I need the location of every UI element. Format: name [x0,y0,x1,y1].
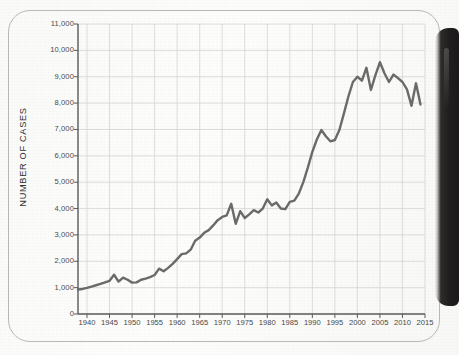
x-tick-label: 1985 [281,318,298,327]
x-tick-label: 1945 [101,318,118,327]
x-tick-label: 1975 [236,318,253,327]
x-tick-label: 2015 [417,318,434,327]
x-axis-tick-labels: 1940194519501955196019651970197519801985… [0,0,459,355]
x-tick-label: 1940 [79,318,96,327]
x-tick-label: 1955 [146,318,163,327]
x-tick-label: 1950 [124,318,141,327]
x-tick-label: 1960 [169,318,186,327]
x-tick-label: 1965 [191,318,208,327]
x-tick-label: 2005 [371,318,388,327]
x-tick-label: 2000 [349,318,366,327]
x-tick-label: 1980 [259,318,276,327]
y-axis-title: NUMBER OF CASES [18,97,28,217]
line-chart: 01,0002,0003,0004,0005,0006,0007,0008,00… [0,0,459,355]
x-tick-label: 2010 [394,318,411,327]
x-tick-label: 1995 [326,318,343,327]
x-tick-label: 1990 [304,318,321,327]
screenshot-root: 01,0002,0003,0004,0005,0006,0007,0008,00… [0,0,459,355]
x-tick-label: 1970 [214,318,231,327]
